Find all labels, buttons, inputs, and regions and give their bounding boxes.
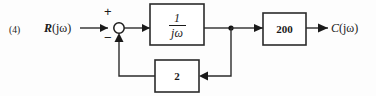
feedback-return-wire [115, 33, 156, 76]
output-variable: C [331, 21, 339, 35]
output-signal-wire [306, 24, 328, 33]
summing-junction-plus-sign: + [104, 5, 112, 18]
integrator-block-label: 1 jω [150, 5, 204, 45]
summing-junction-circle [114, 23, 124, 33]
summing-junction-minus-sign: − [104, 31, 112, 44]
problem-number-label: (4) [9, 26, 20, 36]
input-variable: R [44, 21, 52, 35]
feedback-block-label: 2 [155, 60, 199, 92]
integrator-numerator: 1 [174, 12, 180, 25]
block-diagram-figure: (4) R(jω) C(jω) + − 1 jω 200 2 [0, 0, 376, 96]
gain-input-wire [231, 24, 263, 32]
output-argument: (jω) [339, 21, 358, 35]
output-signal-label: C(jω) [331, 22, 358, 34]
input-signal-label: R(jω) [44, 22, 71, 34]
error-signal-wire [124, 24, 150, 32]
integrator-denominator: jω [171, 26, 183, 39]
input-argument: (jω) [52, 21, 71, 35]
gain-block-label: 200 [263, 13, 306, 45]
